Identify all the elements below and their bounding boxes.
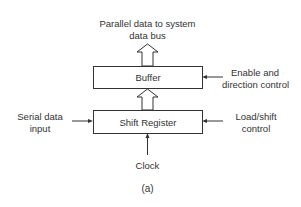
serial-input-label: Serial data input — [10, 111, 70, 134]
buffer-block: Buffer — [93, 66, 203, 89]
enable-line2: direction control — [222, 79, 288, 91]
shift-register-label: Shift Register — [119, 117, 176, 128]
parallel-output-arrow — [137, 44, 158, 66]
output-label-line1: Parallel data to system — [97, 18, 198, 30]
load-line1: Load/shift — [226, 111, 286, 123]
buffer-label: Buffer — [135, 72, 160, 83]
clock-label: Clock — [122, 160, 173, 172]
shift-register-block: Shift Register — [93, 110, 203, 134]
enable-line1: Enable and — [222, 67, 288, 79]
load-line2: control — [226, 123, 286, 135]
parallel-transfer-arrow — [137, 89, 158, 110]
serial-input-line1: Serial data — [10, 111, 70, 123]
enable-direction-label: Enable and direction control — [222, 67, 288, 90]
output-label: Parallel data to system data bus — [97, 18, 198, 41]
load-shift-label: Load/shift control — [226, 111, 286, 134]
figure-caption: (a) — [132, 183, 163, 195]
serial-input-line2: input — [10, 123, 70, 135]
output-label-line2: data bus — [97, 30, 198, 42]
